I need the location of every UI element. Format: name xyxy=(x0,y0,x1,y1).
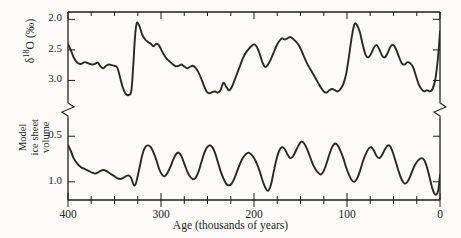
x-tick-label: 400 xyxy=(48,208,88,220)
axis-break-zigzag xyxy=(434,100,446,118)
y-tick-label-top-panel: 3.0 xyxy=(30,72,62,84)
x-tick-label: 200 xyxy=(234,208,274,220)
axis-break-zigzag xyxy=(62,100,74,118)
plot-canvas xyxy=(0,0,461,238)
x-axis-label: Age (thousands of years) xyxy=(0,219,461,231)
data-line-model-ice-volume xyxy=(68,142,440,195)
x-tick-label: 300 xyxy=(141,208,181,220)
y-tick-label-top-panel: 2.5 xyxy=(30,42,62,54)
delta-symbol: δ xyxy=(24,58,36,64)
data-line-d18o xyxy=(68,22,440,95)
x-tick-label: 0 xyxy=(420,208,460,220)
figure-ice-volume-d18o: δ18O (‰) Model ice sheet volume Age (tho… xyxy=(0,0,461,238)
y-tick-label-bottom-panel: 0.5 xyxy=(30,128,62,140)
y-tick-label-bottom-panel: 1.0 xyxy=(30,174,62,186)
y-axis-label-bottom-line1: Model xyxy=(17,124,28,151)
x-tick-label: 100 xyxy=(327,208,367,220)
y-tick-label-top-panel: 2.0 xyxy=(30,11,62,23)
